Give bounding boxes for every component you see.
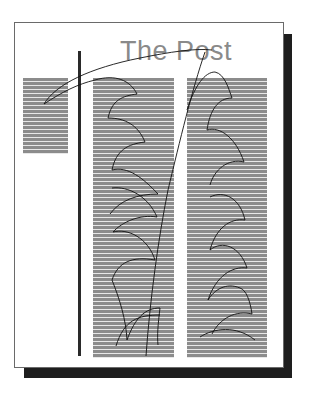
right-fin-6 — [200, 330, 255, 341]
right-fin-4 — [208, 245, 247, 300]
middle-fin-1 — [95, 78, 137, 118]
middle-fin-6 — [112, 280, 160, 345]
reading-path-curves — [0, 0, 310, 395]
middle-fin-3 — [110, 169, 158, 214]
right-fin-3 — [210, 195, 245, 250]
right-fin-5 — [208, 286, 252, 334]
middle-fin-2 — [108, 118, 145, 170]
right-fin-2 — [207, 129, 244, 185]
long-diagonal-path — [146, 52, 205, 356]
right-fin-1 — [187, 72, 232, 130]
middle-fin-5 — [112, 231, 155, 280]
sweep-arc-left-return — [44, 80, 95, 104]
